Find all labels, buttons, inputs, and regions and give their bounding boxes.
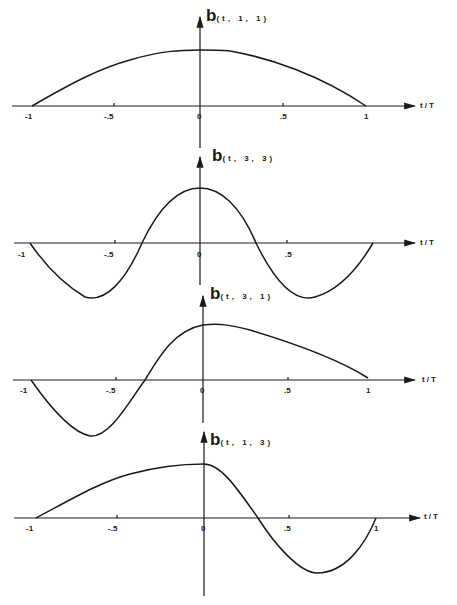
tick-label: -1	[20, 386, 27, 395]
tick-label: -.5	[106, 386, 115, 395]
function-symbol: b	[210, 284, 220, 303]
function-symbol: b	[212, 146, 222, 165]
function-args: (t, 3, 3)	[222, 154, 275, 163]
panel-1-axes	[12, 17, 415, 148]
tick-label: -1	[26, 524, 33, 533]
tick-label: 1	[366, 386, 370, 395]
tick-label: -.5	[104, 250, 113, 259]
panel-2-title: b(t, 3, 3)	[212, 146, 275, 166]
tick-label: 0	[197, 112, 201, 121]
tick-label: 0	[197, 250, 201, 259]
tick-label: -.5	[104, 112, 113, 121]
tick-label: .5	[284, 386, 291, 395]
panel-3-title: b(t, 3, 1)	[210, 284, 273, 304]
tick-label: 0	[200, 386, 204, 395]
x-axis-label: t/T	[422, 375, 438, 384]
panel-4-axes	[14, 432, 420, 596]
function-args: (t, 3, 1)	[220, 292, 273, 301]
tick-label: -1	[18, 250, 25, 259]
tick-label: .5	[285, 250, 292, 259]
tick-label: 0	[201, 524, 205, 533]
function-args: (t, 1, 1)	[216, 14, 269, 23]
tick-label: .5	[280, 112, 287, 121]
x-axis-label: t/T	[424, 512, 440, 521]
panel-3-axes	[13, 296, 415, 423]
tick-label: -.5	[108, 524, 117, 533]
tick-label: 1	[364, 112, 368, 121]
tick-label: .5	[284, 524, 291, 533]
x-axis-label: t/T	[420, 238, 436, 247]
panel-1-title: b(t, 1, 1)	[206, 6, 269, 26]
function-args: (t, 1, 3)	[220, 438, 273, 447]
tick-label: -1	[25, 112, 32, 121]
panel-2-axes	[14, 157, 415, 285]
function-symbol: b	[206, 6, 216, 25]
curve-b-t-1-1	[32, 50, 366, 106]
function-symbol: b	[210, 430, 220, 449]
tick-label: 1	[374, 524, 378, 533]
x-axis-label: t/T	[420, 101, 436, 110]
panel-4-title: b(t, 1, 3)	[210, 430, 273, 450]
